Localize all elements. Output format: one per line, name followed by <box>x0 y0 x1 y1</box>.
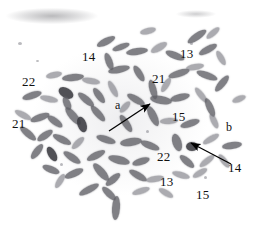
annotation-arrow-layer <box>0 0 254 230</box>
label-chr15-lower: 15 <box>196 188 209 201</box>
label-chr21-left: 21 <box>12 117 25 130</box>
label-chr14-top: 14 <box>82 50 95 63</box>
microscopy-figure: 14132221a2115b22141315 <box>0 0 254 230</box>
label-chr13-lower: 13 <box>160 175 173 188</box>
label-chr13-top: 13 <box>180 47 193 60</box>
label-chr15-mid: 15 <box>172 110 185 123</box>
arrow-b-pointer <box>191 143 231 164</box>
label-chr21-upper: 21 <box>152 72 165 85</box>
label-marker-b: b <box>226 121 232 134</box>
label-chr22-lower: 22 <box>157 150 170 163</box>
label-chr22-left: 22 <box>22 75 35 88</box>
label-marker-a: a <box>115 99 121 112</box>
label-chr14-right: 14 <box>228 161 241 174</box>
